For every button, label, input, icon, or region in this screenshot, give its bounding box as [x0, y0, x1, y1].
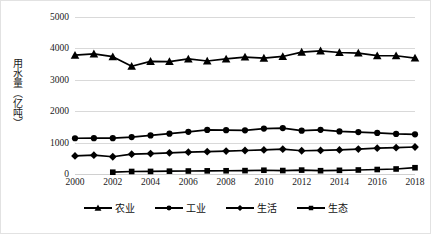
legend-label: 农业: [115, 200, 135, 215]
gridline: [75, 174, 415, 175]
data-point-marker: [393, 166, 399, 172]
data-point-marker: [204, 127, 210, 133]
legend-marker-triangle-icon: [84, 202, 112, 213]
series-生态: [110, 165, 418, 175]
data-point-marker: [129, 169, 135, 175]
y-axis-title-text: 用水量（亿吨）: [11, 58, 21, 128]
data-point-marker: [299, 167, 305, 173]
legend-marker-diamond-icon: [226, 202, 254, 213]
legend-label: 生态: [328, 200, 348, 215]
data-point-marker: [94, 204, 101, 210]
x-tick-label: 2014: [330, 177, 349, 187]
x-tick-label: 2012: [292, 177, 311, 187]
data-point-marker: [261, 167, 267, 173]
y-tick-label: 2000: [31, 106, 69, 116]
data-point-marker: [298, 147, 306, 155]
data-point-marker: [412, 131, 418, 137]
x-tick-label: 2008: [217, 177, 236, 187]
y-tick-label: 5000: [31, 12, 69, 22]
data-point-marker: [185, 129, 191, 135]
legend-label: 生活: [257, 200, 277, 215]
data-point-marker: [261, 125, 267, 131]
data-point-marker: [299, 128, 305, 134]
data-point-marker: [222, 147, 230, 155]
data-point-marker: [90, 151, 98, 159]
data-point-marker: [308, 205, 312, 209]
legend-label: 工业: [186, 200, 206, 215]
data-point-marker: [242, 168, 248, 174]
data-point-marker: [166, 149, 174, 157]
y-tick-label: 4000: [31, 43, 69, 53]
legend-item-生活[interactable]: 生活: [226, 200, 277, 215]
data-point-marker: [393, 131, 399, 137]
data-point-marker: [223, 168, 229, 174]
data-point-marker: [317, 147, 325, 155]
data-point-marker: [374, 130, 380, 136]
data-point-marker: [260, 146, 268, 154]
data-point-marker: [203, 148, 211, 156]
data-point-marker: [91, 135, 97, 141]
x-axis-ticks: 2000200220042006200820102012201420162018: [75, 177, 415, 193]
data-point-marker: [242, 127, 248, 133]
data-point-marker: [184, 148, 192, 156]
data-point-marker: [166, 131, 172, 137]
series-农业: [71, 47, 420, 70]
data-point-marker: [280, 125, 286, 131]
y-tick-label: 1000: [31, 138, 69, 148]
data-point-marker: [337, 168, 343, 174]
data-point-marker: [147, 132, 153, 138]
data-point-marker: [223, 127, 229, 133]
data-point-marker: [412, 165, 418, 171]
data-point-marker: [241, 147, 249, 155]
data-point-marker: [166, 205, 171, 210]
data-point-marker: [109, 153, 117, 161]
data-point-marker: [129, 134, 135, 140]
data-point-marker: [411, 143, 419, 151]
chart-legend: 农业工业生活生态: [1, 200, 430, 215]
data-point-marker: [72, 135, 78, 141]
data-point-marker: [186, 168, 192, 174]
data-point-marker: [374, 167, 380, 173]
legend-item-农业[interactable]: 农业: [84, 200, 135, 215]
x-tick-label: 2006: [179, 177, 198, 187]
data-point-marker: [318, 168, 324, 174]
data-point-marker: [279, 145, 287, 153]
data-point-marker: [148, 169, 154, 175]
x-tick-label: 2010: [254, 177, 273, 187]
x-tick-label: 2018: [406, 177, 425, 187]
data-point-marker: [110, 169, 116, 175]
data-point-marker: [236, 204, 242, 210]
x-tick-label: 2004: [141, 177, 160, 187]
legend-marker-circle-icon: [155, 202, 183, 213]
data-point-marker: [392, 144, 400, 152]
x-tick-label: 2002: [103, 177, 122, 187]
data-point-marker: [204, 168, 210, 174]
series-工业: [72, 125, 418, 141]
data-point-marker: [128, 150, 136, 158]
plot-area: 010002000300040005000: [75, 17, 415, 174]
data-point-marker: [110, 135, 116, 141]
legend-item-生态[interactable]: 生态: [297, 200, 348, 215]
data-point-marker: [167, 168, 173, 174]
x-tick-label: 2016: [368, 177, 387, 187]
data-point-marker: [336, 128, 342, 134]
series-layer: [75, 17, 415, 174]
y-axis-title: 用水量（亿吨）: [5, 13, 27, 173]
legend-item-工业[interactable]: 工业: [155, 200, 206, 215]
x-tick-label: 2000: [66, 177, 85, 187]
legend-marker-square-icon: [297, 202, 325, 213]
data-point-marker: [373, 144, 381, 152]
series-生活: [71, 143, 419, 161]
data-point-marker: [280, 168, 286, 174]
y-tick-label: 0: [31, 169, 69, 179]
data-point-marker: [147, 150, 155, 158]
data-point-marker: [354, 145, 362, 153]
data-point-marker: [356, 167, 362, 173]
data-point-marker: [336, 146, 344, 154]
water-usage-line-chart: 用水量（亿吨） 010002000300040005000 2000200220…: [0, 0, 431, 234]
data-point-marker: [71, 152, 79, 160]
data-point-marker: [317, 127, 323, 133]
data-point-marker: [355, 129, 361, 135]
y-tick-label: 3000: [31, 75, 69, 85]
